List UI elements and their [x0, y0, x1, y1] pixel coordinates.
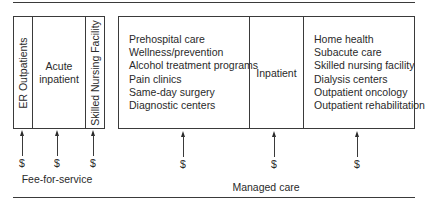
list-item: Prehospital care	[129, 33, 258, 46]
managed-care-box: Prehospital care Wellness/prevention Alc…	[118, 16, 415, 129]
list-item: Skilled nursing facility	[314, 59, 425, 72]
er-outpatients-label: ER Outpatients	[17, 37, 29, 108]
dollar-icon: $	[180, 158, 186, 170]
skilled-nursing-facility-label: Skilled Nursing Facility	[89, 20, 101, 126]
list-item: Wellness/prevention	[129, 46, 258, 59]
dollar-icon: $	[19, 157, 25, 169]
arrow-up-icon	[18, 130, 26, 156]
acute-inpatient-line-1: Acute	[33, 60, 85, 73]
list-item: Diagnostic centers	[129, 99, 258, 112]
managed-care-label: Managed care	[232, 181, 299, 193]
fee-for-service-box: ER Outpatients Acute inpatient Skilled N…	[13, 16, 105, 129]
er-outpatients-cell: ER Outpatients	[14, 17, 32, 128]
skilled-nursing-facility-cell: Skilled Nursing Facility	[85, 17, 104, 128]
arrow-up-icon	[89, 130, 97, 156]
post-acute-services-list: Home health Subacute care Skilled nursin…	[314, 17, 425, 128]
acute-inpatient-label: Acute inpatient	[33, 60, 85, 86]
list-item: Home health	[314, 33, 425, 46]
post-acute-services-cell: Home health Subacute care Skilled nursin…	[303, 17, 414, 128]
dollar-icon: $	[354, 158, 360, 170]
list-item: Dialysis centers	[314, 73, 425, 86]
list-item: Pain clinics	[129, 73, 258, 86]
inpatient-cell: Inpatient	[249, 17, 303, 128]
list-item: Subacute care	[314, 46, 425, 59]
acute-inpatient-cell: Acute inpatient	[32, 17, 85, 128]
list-item: Outpatient oncology	[314, 86, 425, 99]
bottom-rule	[13, 197, 415, 198]
outpatient-services-list: Prehospital care Wellness/prevention Alc…	[129, 17, 258, 128]
inpatient-label: Inpatient	[250, 66, 303, 79]
list-item: Same-day surgery	[129, 86, 258, 99]
arrow-up-icon	[179, 131, 187, 157]
arrow-up-icon	[53, 130, 61, 156]
outpatient-services-cell: Prehospital care Wellness/prevention Alc…	[119, 17, 249, 128]
dollar-icon: $	[271, 158, 277, 170]
dollar-icon: $	[54, 157, 60, 169]
list-item: Outpatient rehabilitation	[314, 99, 425, 112]
acute-inpatient-line-2: inpatient	[33, 73, 85, 86]
dollar-icon: $	[90, 157, 96, 169]
top-rule	[13, 2, 415, 3]
fee-for-service-label: Fee-for-service	[22, 173, 93, 185]
arrow-up-icon	[353, 131, 361, 157]
list-item: Alcohol treatment programs	[129, 59, 258, 72]
arrow-up-icon	[270, 131, 278, 157]
